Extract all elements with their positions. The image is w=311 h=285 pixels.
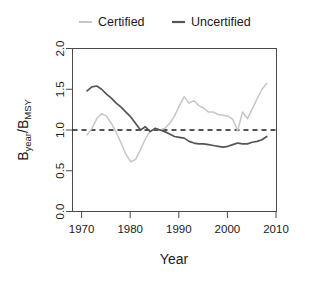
x-tick-label-2000: 2000 — [215, 223, 241, 235]
y-axis-title: Byear/BMSY — [15, 99, 33, 161]
y-title-numerator-sub: year — [22, 133, 33, 151]
x-axis-title: Year — [160, 251, 189, 267]
y-axis-ticks — [66, 49, 73, 212]
y-title-denominator-sub: MSY — [22, 99, 33, 120]
series-line-uncertified — [87, 86, 267, 147]
x-axis-tick-labels: 1970 1980 1990 2000 2010 — [69, 223, 289, 235]
legend-label-certified: Certified — [98, 15, 145, 29]
y-axis-title-text: Byear/BMSY — [15, 99, 33, 161]
x-tick-label-1990: 1990 — [166, 223, 192, 235]
y-tick-label-0.0: 0.0 — [54, 204, 66, 220]
chart-figure: Certified Uncertified 2.0 1.5 1.0 0.5 0.… — [0, 0, 311, 285]
y-title-denominator-base: B — [15, 120, 31, 129]
y-title-numerator-base: B — [15, 151, 31, 160]
y-axis-tick-labels: 2.0 1.5 1.0 0.5 0.0 — [54, 41, 66, 220]
y-tick-label-1.0: 1.0 — [54, 122, 66, 138]
legend-label-uncertified: Uncertified — [191, 15, 251, 29]
series-line-certified — [87, 84, 267, 162]
x-axis-ticks — [82, 212, 276, 219]
y-tick-label-2.0: 2.0 — [54, 41, 66, 57]
x-tick-label-1980: 1980 — [117, 223, 143, 235]
y-tick-label-1.5: 1.5 — [54, 81, 66, 97]
chart-canvas: Certified Uncertified 2.0 1.5 1.0 0.5 0.… — [0, 0, 311, 285]
chart-legend: Certified Uncertified — [79, 15, 251, 29]
x-tick-label-2010: 2010 — [263, 223, 289, 235]
y-tick-label-0.5: 0.5 — [54, 163, 66, 179]
x-tick-label-1970: 1970 — [69, 223, 95, 235]
